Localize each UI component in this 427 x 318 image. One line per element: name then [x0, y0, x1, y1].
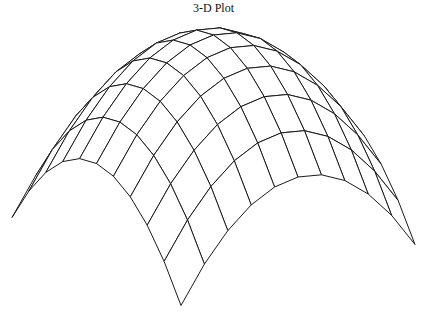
mesh-cell — [375, 171, 415, 244]
surface-mesh — [12, 28, 415, 306]
surface-wireframe-plot — [0, 0, 427, 318]
